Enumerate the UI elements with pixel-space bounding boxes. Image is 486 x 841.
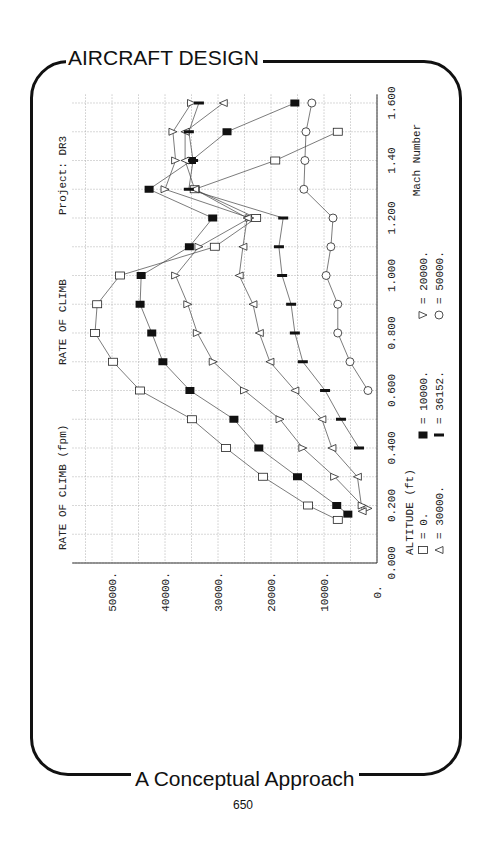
marker-open-circle [334, 300, 342, 308]
marker-open-diamond [291, 387, 299, 394]
marker-filled-square [229, 416, 238, 423]
marker-open-triangle [184, 301, 192, 308]
marker-filled-square [208, 215, 217, 222]
marker-filled-square [158, 358, 167, 365]
marker-filled-square [343, 511, 352, 518]
series-line [140, 103, 348, 514]
mach-tick-label: 0.000 [386, 546, 398, 579]
marker-filled-bar [184, 130, 194, 133]
marker-open-square [91, 330, 100, 337]
legend-label: = 50000. [434, 251, 446, 304]
marker-open-diamond [249, 301, 257, 308]
marker-open-triangle [195, 243, 203, 250]
marker-open-triangle [419, 312, 427, 319]
marker-open-diamond [266, 358, 274, 365]
marker-open-diamond [435, 547, 443, 554]
marker-filled-square [223, 128, 232, 135]
legend-label: = 36152. [434, 371, 446, 424]
marker-filled-square [145, 186, 154, 193]
mach-tick-label: 1.600 [386, 86, 398, 119]
mach-tick-label: 0.600 [386, 374, 398, 407]
marker-filled-square [293, 473, 302, 480]
mach-axis-label: Mach Number [411, 124, 423, 197]
marker-open-circle [327, 243, 335, 251]
chart-title: RATE OF CLIMB [57, 279, 69, 365]
legend-label: = 30000. [434, 486, 446, 539]
marker-open-triangle [276, 416, 284, 423]
marker-open-triangle [331, 473, 339, 480]
marker-open-square [115, 272, 124, 279]
marker-open-circle [329, 214, 337, 222]
roc-tick-label: 30000. [213, 572, 225, 612]
marker-filled-bar [286, 303, 296, 306]
marker-filled-bar [336, 418, 346, 421]
marker-filled-bar [298, 360, 308, 363]
marker-filled-bar [274, 245, 284, 248]
marker-filled-bar [188, 159, 198, 162]
marker-open-square [188, 416, 197, 423]
marker-open-square [259, 473, 268, 480]
marker-filled-square [419, 432, 428, 439]
marker-filled-square [136, 301, 145, 308]
marker-open-circle [364, 387, 372, 395]
roc-tick-label: 10000. [319, 572, 331, 612]
marker-filled-bar [290, 332, 300, 335]
marker-open-square [304, 502, 313, 509]
marker-open-circle [435, 311, 443, 319]
marker-filled-bar [194, 102, 204, 105]
marker-filled-square [254, 445, 263, 452]
legend-title: ALTITUDE (ft) [404, 469, 416, 555]
marker-open-circle [322, 272, 330, 280]
roc-axis-title: RATE OF CLIMB (fpm) [57, 425, 69, 550]
marker-open-circle [300, 185, 308, 193]
legend-label: = 0. [418, 513, 430, 539]
marker-open-square [210, 243, 219, 250]
marker-open-square [271, 157, 280, 164]
marker-open-circle [302, 128, 310, 136]
marker-open-square [419, 547, 428, 554]
marker-open-square [136, 387, 145, 394]
marker-open-square [221, 445, 230, 452]
mach-tick-label: 0.400 [386, 431, 398, 464]
mach-tick-label: 0.800 [386, 316, 398, 349]
marker-open-diamond [255, 330, 263, 337]
marker-filled-square [290, 100, 299, 107]
marker-filled-square [185, 387, 194, 394]
marker-filled-bar [277, 274, 287, 277]
marker-open-diamond [328, 445, 336, 452]
marker-filled-square [185, 243, 194, 250]
marker-filled-bar [354, 447, 364, 450]
marker-filled-bar [278, 217, 288, 220]
mach-tick-label: 1.40 [386, 147, 398, 173]
rate-of-climb-chart: 50000.40000.30000.20000.10000.0.0.0000.2… [0, 0, 486, 841]
marker-filled-bar [184, 188, 194, 191]
marker-open-square [333, 516, 342, 523]
marker-filled-square [332, 502, 341, 509]
legend-label: = 10000. [418, 371, 430, 424]
marker-open-triangle [172, 272, 180, 279]
marker-open-circle [334, 329, 342, 337]
marker-filled-bar [434, 434, 444, 437]
marker-open-circle [301, 157, 309, 165]
mach-tick-label: 1.200 [386, 201, 398, 234]
marker-filled-square [137, 272, 146, 279]
project-label: Project: DR3 [57, 136, 69, 215]
marker-open-circle [308, 99, 316, 107]
roc-tick-label: 40000. [160, 572, 172, 612]
mach-tick-label: 1.000 [386, 259, 398, 292]
marker-open-triangle [193, 330, 201, 337]
marker-open-square [333, 128, 342, 135]
marker-filled-square [147, 330, 156, 337]
mach-tick-label: 0.200 [386, 489, 398, 522]
marker-open-square [109, 358, 118, 365]
roc-tick-label: 50000. [107, 572, 119, 612]
marker-open-square [93, 301, 102, 308]
marker-open-circle [346, 358, 354, 366]
roc-tick-label: 0. [372, 585, 384, 598]
roc-tick-label: 20000. [266, 572, 278, 612]
marker-filled-bar [320, 389, 330, 392]
legend-label: = 20000. [418, 251, 430, 304]
